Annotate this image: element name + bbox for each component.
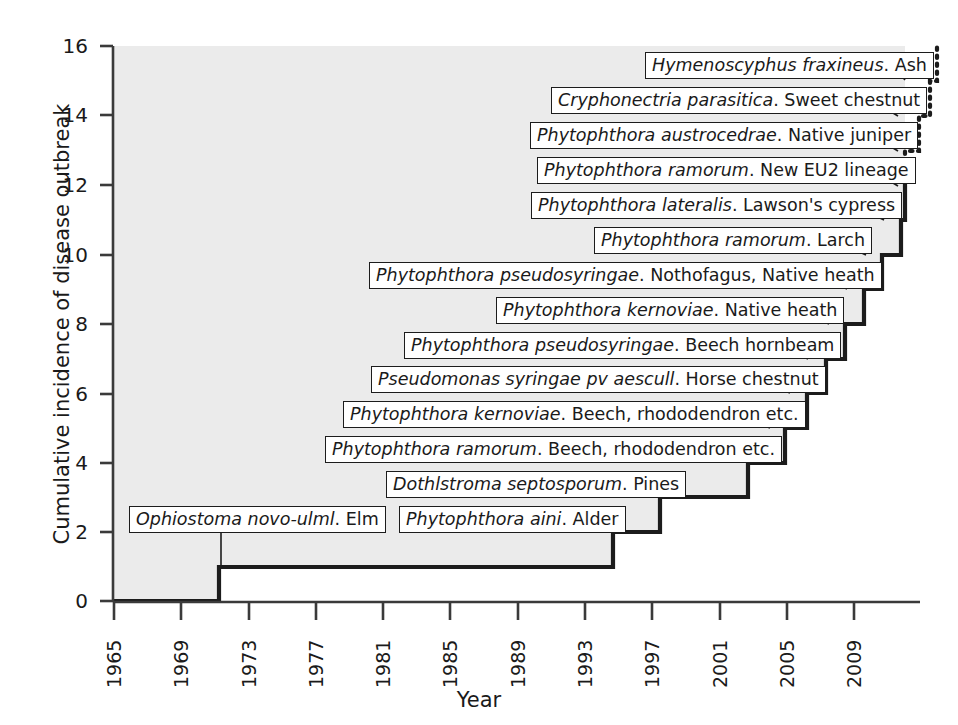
callout-box-14: Phytophthora aini. Alder bbox=[399, 506, 626, 533]
callout-box-6: Phytophthora ramorum. Larch bbox=[594, 227, 872, 254]
callout-species-7: Phytophthora pseudosyringae bbox=[376, 265, 639, 285]
x-tick-label-1973: 1973 bbox=[240, 640, 259, 688]
callout-box-9: Phytophthora pseudosyringae. Beech hornb… bbox=[404, 332, 841, 359]
callout-box-11: Phytophthora kernoviae. Beech, rhododend… bbox=[343, 401, 806, 428]
callout-species-3: Phytophthora austrocedrae bbox=[537, 125, 777, 145]
callout-host-3: Native juniper bbox=[788, 125, 911, 145]
callout-sep-4: . bbox=[749, 160, 760, 180]
callout-sep-1: . bbox=[884, 55, 895, 75]
callout-box-10: Pseudomonas syringae pv aescull. Horse c… bbox=[371, 366, 826, 393]
callout-box-15: Ophiostoma novo-ulml. Elm bbox=[129, 506, 386, 533]
callout-species-13: Dothlstroma septosporum bbox=[393, 474, 622, 494]
callout-species-5: Phytophthora lateralis bbox=[538, 195, 732, 215]
callout-box-7: Phytophthora pseudosyringae. Nothofagus,… bbox=[369, 262, 882, 289]
chart-figure: 16 14 12 10 8 6 4 2 0 1965 1969 1973 197… bbox=[0, 0, 958, 725]
x-tick-label-1981: 1981 bbox=[374, 640, 393, 688]
callout-host-2: Sweet chestnut bbox=[784, 90, 920, 110]
callout-host-5: Lawson's cypress bbox=[743, 195, 895, 215]
callout-box-4: Phytophthora ramorum. New EU2 lineage bbox=[537, 157, 916, 184]
callout-box-8: Phytophthora kernoviae. Native heath bbox=[496, 297, 844, 324]
x-tick-label-2009: 2009 bbox=[845, 640, 864, 688]
callout-species-15: Ophiostoma novo-ulml bbox=[136, 509, 335, 529]
callout-sep-10: . bbox=[674, 369, 685, 389]
callout-box-12: Phytophthora ramorum. Beech, rhododendro… bbox=[325, 436, 782, 463]
callout-host-12: Beech, rhododendron etc. bbox=[548, 439, 775, 459]
x-tick-label-1969: 1969 bbox=[172, 640, 191, 688]
callout-species-12: Phytophthora ramorum bbox=[332, 439, 537, 459]
y-axis-title: Cumulative incidence of disease outbreak bbox=[50, 44, 74, 604]
callout-host-9: Beech hornbeam bbox=[685, 335, 834, 355]
callout-sep-11: . bbox=[561, 404, 572, 424]
callout-sep-8: . bbox=[714, 300, 725, 320]
callout-species-14: Phytophthora aini bbox=[406, 509, 561, 529]
callout-species-4: Phytophthora ramorum bbox=[544, 160, 749, 180]
x-tick-label-1985: 1985 bbox=[441, 640, 460, 688]
callout-host-11: Beech, rhododendron etc. bbox=[572, 404, 799, 424]
callout-sep-5: . bbox=[732, 195, 743, 215]
callout-host-8: Native heath bbox=[725, 300, 838, 320]
callout-sep-6: . bbox=[806, 230, 817, 250]
callout-host-7: Nothofagus, Native heath bbox=[650, 265, 875, 285]
x-tick-label-1977: 1977 bbox=[307, 640, 326, 688]
callout-species-8: Phytophthora kernoviae bbox=[503, 300, 714, 320]
callout-host-14: Alder bbox=[573, 509, 619, 529]
callout-box-2: Cryphonectria parasitica. Sweet chestnut bbox=[551, 87, 927, 114]
callout-sep-9: . bbox=[674, 335, 685, 355]
callout-sep-13: . bbox=[622, 474, 633, 494]
callout-sep-2: . bbox=[773, 90, 784, 110]
callout-host-15: Elm bbox=[346, 509, 379, 529]
callout-box-13: Dothlstroma septosporum. Pines bbox=[386, 471, 686, 498]
x-tick-label-1965: 1965 bbox=[105, 640, 124, 688]
callout-host-10: Horse chestnut bbox=[686, 369, 819, 389]
callout-sep-12: . bbox=[537, 439, 548, 459]
x-tick-label-2005: 2005 bbox=[778, 640, 797, 688]
callout-sep-7: . bbox=[639, 265, 650, 285]
callout-species-10: Pseudomonas syringae pv aescull bbox=[378, 369, 674, 389]
callout-species-2: Cryphonectria parasitica bbox=[558, 90, 773, 110]
callout-box-3: Phytophthora austrocedrae. Native junipe… bbox=[530, 122, 918, 149]
x-tick-label-1989: 1989 bbox=[509, 640, 528, 688]
callout-species-9: Phytophthora pseudosyringae bbox=[411, 335, 674, 355]
x-axis-title: Year bbox=[0, 688, 958, 712]
callout-host-4: New EU2 lineage bbox=[760, 160, 908, 180]
callout-host-1: Ash bbox=[895, 55, 927, 75]
callout-species-1: Hymenoscyphus fraxineus bbox=[652, 55, 884, 75]
callout-sep-15: . bbox=[335, 509, 346, 529]
callout-sep-14: . bbox=[561, 509, 572, 529]
callout-box-1: Hymenoscyphus fraxineus. Ash bbox=[645, 52, 934, 79]
x-tick-label-1993: 1993 bbox=[576, 640, 595, 688]
callout-species-6: Phytophthora ramorum bbox=[601, 230, 806, 250]
callout-host-6: Larch bbox=[817, 230, 865, 250]
callout-sep-3: . bbox=[777, 125, 788, 145]
callout-host-13: Pines bbox=[633, 474, 679, 494]
callout-box-5: Phytophthora lateralis. Lawson's cypress bbox=[531, 192, 902, 219]
x-tick-label-2001: 2001 bbox=[711, 640, 730, 688]
callout-species-11: Phytophthora kernoviae bbox=[350, 404, 561, 424]
x-tick-label-1997: 1997 bbox=[643, 640, 662, 688]
